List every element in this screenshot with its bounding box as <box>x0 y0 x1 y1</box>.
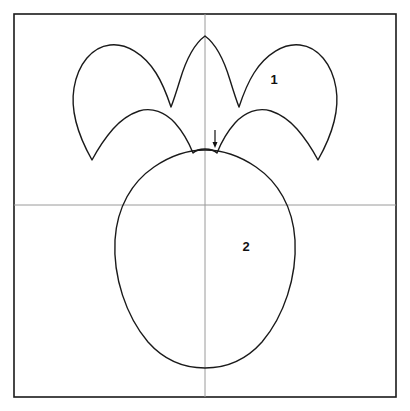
piece-number-1: 1 <box>270 72 277 87</box>
piece-number-2: 2 <box>242 239 249 254</box>
pattern-canvas: 1 2 <box>0 0 410 411</box>
placement-arrow-head <box>213 142 218 148</box>
pattern-sheet: 1 2 <box>0 0 410 411</box>
placement-arrow <box>213 130 218 148</box>
